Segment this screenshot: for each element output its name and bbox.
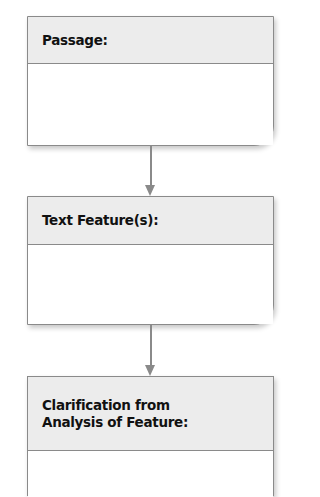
arrow-down-icon <box>150 325 152 376</box>
passage-header: Passage: <box>28 17 273 64</box>
text-features-label: Text Feature(s): <box>42 212 158 229</box>
text-features-box: Text Feature(s): <box>27 196 274 325</box>
clarification-label-line2: Analysis of Feature: <box>42 414 188 431</box>
clarification-box: Clarification from Analysis of Feature: <box>27 376 274 496</box>
passage-label: Passage: <box>42 32 108 49</box>
text-features-header: Text Feature(s): <box>28 197 273 245</box>
clarification-header: Clarification from Analysis of Feature: <box>28 377 273 451</box>
arrow-down-icon <box>150 146 152 196</box>
passage-input-area[interactable] <box>28 64 273 145</box>
clarification-input-area[interactable] <box>28 451 273 497</box>
text-features-input-area[interactable] <box>28 245 273 324</box>
clarification-label-line1: Clarification from <box>42 397 170 414</box>
passage-box: Passage: <box>27 16 274 146</box>
